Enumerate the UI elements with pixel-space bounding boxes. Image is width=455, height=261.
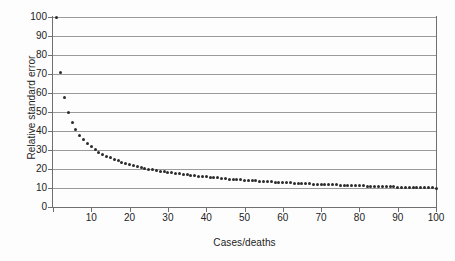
data-point [147,168,150,171]
y-axis-tick-label: 50 [21,106,47,117]
data-point [262,180,265,183]
data-point [67,111,70,114]
data-point [201,175,204,178]
data-point [197,175,200,178]
data-point [385,185,388,188]
gridline [53,150,436,151]
data-point [170,171,173,174]
data-point [343,184,346,187]
data-point [78,134,81,137]
x-axis-tick-label: 40 [191,212,221,223]
data-point [258,180,261,183]
data-point [358,184,361,187]
data-point [163,170,166,173]
data-point [228,178,231,181]
data-point [166,171,169,174]
data-point [155,169,158,172]
data-point [308,182,311,185]
data-point [381,185,384,188]
data-point [97,151,100,154]
data-point [408,186,411,189]
data-point [209,176,212,179]
data-point [94,148,97,151]
y-axis-tick-label: 30 [21,144,47,155]
data-point [281,181,284,184]
data-point [297,182,300,185]
y-axis-tick-label: 70 [21,68,47,79]
data-point [224,177,227,180]
x-axis-tick-label: 90 [383,212,413,223]
data-point [331,183,334,186]
data-point [277,181,280,184]
data-point [285,181,288,184]
data-point [205,175,208,178]
data-point [289,181,292,184]
x-axis-tick-label: 20 [115,212,145,223]
data-point [105,155,108,158]
data-point [323,183,326,186]
data-point [320,183,323,186]
gridline [53,131,436,132]
data-point [159,170,162,173]
data-point [239,178,242,181]
data-point [174,172,177,175]
data-point [55,16,58,19]
data-point [120,161,123,164]
data-point [247,179,250,182]
data-point [117,159,120,162]
plot-right-border [436,16,437,208]
data-point [182,173,185,176]
data-point [270,180,273,183]
data-point [186,173,189,176]
data-point [293,182,296,185]
y-axis-tick-label: 10 [21,182,47,193]
y-axis-tick-labels: 0102030405060708090100 [21,17,47,207]
data-point [316,183,319,186]
gridline [53,55,436,56]
x-axis-tick-label: 60 [268,212,298,223]
data-point [128,163,131,166]
data-point [354,184,357,187]
data-point [435,187,438,190]
gridline [53,17,436,18]
data-point [63,96,66,99]
gridline [53,93,436,94]
data-point [82,138,85,141]
gridline [53,188,436,189]
data-point [86,142,89,145]
y-axis-tick-label: 0 [21,201,47,212]
data-point [366,185,369,188]
y-axis-tick-label: 20 [21,163,47,174]
plot-area [53,17,436,207]
data-point [327,183,330,186]
data-point [235,178,238,181]
x-axis-tick-label: 10 [76,212,106,223]
data-point [71,121,74,124]
gridline [53,112,436,113]
data-point [396,186,399,189]
data-point [151,168,154,171]
data-point [124,162,127,165]
data-point [339,184,342,187]
data-point [243,179,246,182]
data-point [113,158,116,161]
data-point [404,186,407,189]
y-axis-tick-label: 40 [21,125,47,136]
chart-figure: Relative standard error 0102030405060708… [0,0,455,261]
data-point [300,182,303,185]
data-point [346,184,349,187]
data-point [400,186,403,189]
data-point [178,172,181,175]
data-point [232,178,235,181]
data-point [136,165,139,168]
data-point [266,180,269,183]
data-point [274,181,277,184]
x-axis-tick-label: 100 [421,212,451,223]
x-axis-tick-label: 80 [344,212,374,223]
data-point [193,174,196,177]
data-point [220,177,223,180]
data-point [335,183,338,186]
data-point [304,182,307,185]
data-point [140,166,143,169]
data-point [109,156,112,159]
